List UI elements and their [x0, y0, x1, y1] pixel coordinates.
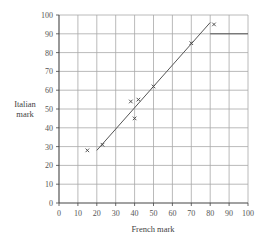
- x-marker: [86, 149, 90, 153]
- axes: 0102030405060708090100010203040506070809…: [41, 11, 254, 218]
- y-tick-label: 10: [45, 180, 53, 189]
- y-tick-label: 60: [45, 86, 53, 95]
- x-marker: [137, 98, 141, 102]
- y-tick-label: 30: [45, 143, 53, 152]
- y-tick-label: 80: [45, 49, 53, 58]
- x-marker: [129, 100, 133, 104]
- x-axis-title: French mark: [131, 224, 175, 234]
- x-tick-label: 10: [74, 209, 82, 218]
- grid-lines: [59, 15, 248, 203]
- x-tick-label: 50: [150, 209, 158, 218]
- y-tick-label: 90: [45, 30, 53, 39]
- x-tick-label: 60: [168, 209, 176, 218]
- y-tick-label: 50: [45, 105, 53, 114]
- x-tick-label: 0: [57, 209, 61, 218]
- x-tick-label: 30: [112, 209, 120, 218]
- x-marker: [212, 23, 216, 27]
- x-tick-label: 100: [242, 209, 254, 218]
- x-tick-label: 20: [93, 209, 101, 218]
- y-tick-label: 0: [49, 199, 53, 208]
- scatter-chart: 0102030405060708090100010203040506070809…: [0, 0, 261, 240]
- y-tick-label: 20: [45, 161, 53, 170]
- x-tick-label: 40: [131, 209, 139, 218]
- x-tick-label: 80: [206, 209, 214, 218]
- data-points: [86, 23, 216, 153]
- x-tick-label: 90: [225, 209, 233, 218]
- y-tick-label: 70: [45, 67, 53, 76]
- y-axis-title-line1: Italian: [14, 99, 36, 109]
- y-axis-title-line2: mark: [16, 109, 34, 119]
- x-tick-label: 70: [187, 209, 195, 218]
- y-tick-label: 100: [41, 11, 53, 20]
- y-tick-label: 40: [45, 124, 53, 133]
